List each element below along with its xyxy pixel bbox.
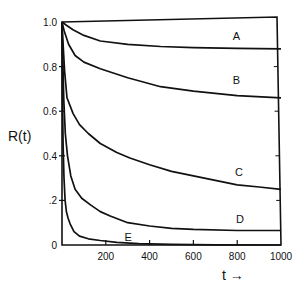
x-tick-label: 800 [229,251,246,262]
curve-labels: ABCDE [124,30,244,243]
y-tick-label: 0.4 [43,151,57,162]
chart-svg: 2004006008001000 0.20.40.60.81.0 ABCDE R… [0,0,306,290]
y-axis-title: R(t) [8,128,31,144]
curve-label-b: B [233,74,240,86]
y-tick-label: 0.6 [43,106,57,117]
curve-label-c: C [235,166,243,178]
y-tick-label: .2 [49,195,58,206]
curve-d [62,22,281,231]
y-tick-label: 1.0 [43,17,57,28]
curve-label-a: A [233,30,241,42]
x-axis-title: t → [222,267,244,283]
curve-b [62,22,281,98]
curve-a [62,22,281,49]
frame-border [62,17,281,245]
y-axis-ticks: 0.20.40.60.81.0 [43,17,280,251]
curve-label-d: D [236,213,244,225]
y-tick-label: 0 [51,240,57,251]
x-tick-label: 600 [185,251,202,262]
curves [62,22,281,245]
x-tick-label: 400 [141,251,158,262]
x-tick-label: 200 [97,251,114,262]
plot-frame [62,17,281,245]
y-tick-label: 0.8 [43,62,57,73]
curve-label-e: E [124,231,131,243]
curve-e [62,22,281,245]
x-tick-label: 1000 [270,251,293,262]
